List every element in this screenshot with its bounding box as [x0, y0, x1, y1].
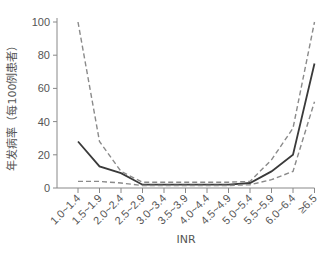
- y-tick-label: 80: [38, 49, 50, 61]
- y-tick-label: 20: [38, 149, 50, 161]
- y-axis-title: 年发病率（每100例患者）: [5, 40, 19, 171]
- x-tick-label: ≥6.5: [295, 192, 319, 216]
- series-line-0: [78, 64, 315, 185]
- x-axis-title: INR: [176, 233, 195, 246]
- x-axis: 1.0~1.41.5~1.92.0~2.42.5~2.93.0~3.43.5~3…: [48, 188, 319, 227]
- y-tick-label: 100: [32, 16, 50, 28]
- series-line-2: [78, 102, 315, 186]
- y-axis: 020406080100: [32, 16, 57, 194]
- y-tick-label: 0: [44, 182, 50, 194]
- series-lines: [78, 22, 315, 186]
- line-chart: 020406080100 1.0~1.41.5~1.92.0~2.42.5~2.…: [0, 0, 333, 253]
- y-tick-label: 60: [38, 82, 50, 94]
- y-tick-label: 40: [38, 116, 50, 128]
- series-line-1: [78, 22, 315, 182]
